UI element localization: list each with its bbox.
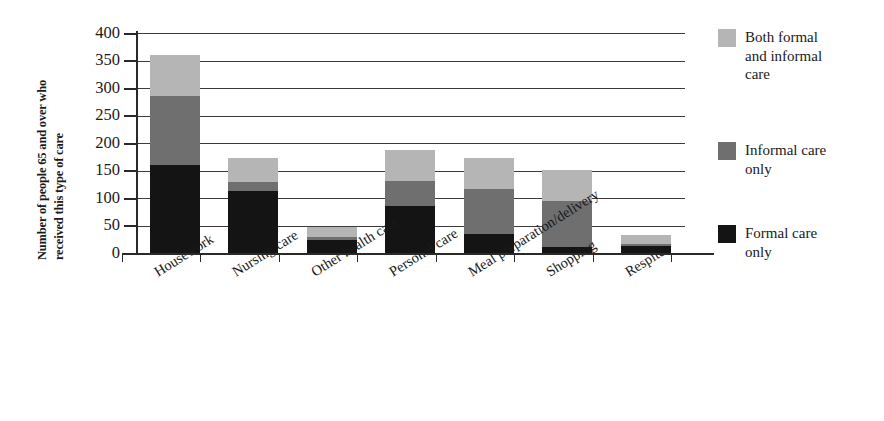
y-axis-title-line-1: Number of people 65 and over who bbox=[35, 80, 50, 260]
bar-segment-informal-care-only bbox=[385, 181, 435, 206]
bar-segment-informal-care-only bbox=[228, 182, 278, 191]
legend-entry-informal-care-only: Informal care only bbox=[718, 141, 826, 178]
bar-segment-informal-care-only bbox=[150, 96, 200, 165]
legend-swatch-informal-icon bbox=[718, 142, 736, 160]
legend-label-informal: Informal care only bbox=[745, 141, 826, 178]
y-tick-label-250: 250 bbox=[74, 107, 120, 124]
y-tick-label-100: 100 bbox=[74, 190, 120, 207]
legend-entry-formal-care-only: Formal care only bbox=[718, 224, 817, 261]
y-tick-label-50: 50 bbox=[74, 217, 120, 234]
y-tick-label-200: 200 bbox=[74, 135, 120, 152]
bar-segment-informal-care-only bbox=[464, 189, 514, 234]
y-tick-label-0: 0 bbox=[74, 245, 120, 262]
bar-nursing-care bbox=[228, 33, 278, 253]
y-tick-label-150: 150 bbox=[74, 162, 120, 179]
legend-swatch-both-icon bbox=[718, 29, 736, 47]
bar-segment-both-formal-and-informal-care bbox=[464, 158, 514, 188]
bar-segment-informal-care-only bbox=[621, 244, 671, 247]
bar-housework bbox=[150, 33, 200, 253]
bar-other-health-care bbox=[307, 33, 357, 253]
legend-label-both: Both formal and informal care bbox=[745, 28, 822, 84]
legend-label-formal: Formal care only bbox=[745, 224, 817, 261]
chart-legend: Both formal and informal care Informal c… bbox=[718, 28, 878, 263]
bar-segment-both-formal-and-informal-care bbox=[307, 227, 357, 237]
bar-segment-both-formal-and-informal-care bbox=[385, 150, 435, 181]
bar-meal-preparation-delivery bbox=[464, 33, 514, 253]
y-tick-label-300: 300 bbox=[74, 80, 120, 97]
plot-area bbox=[136, 33, 685, 253]
y-tick-label-400: 400 bbox=[74, 25, 120, 42]
stacked-bar-chart: Number of people 65 and over who receive… bbox=[0, 0, 884, 421]
bar-respite bbox=[621, 33, 671, 253]
legend-entry-both-formal-and-informal: Both formal and informal care bbox=[718, 28, 822, 84]
legend-swatch-formal-icon bbox=[718, 225, 736, 243]
x-axis-line bbox=[122, 253, 714, 255]
y-tick-label-350: 350 bbox=[74, 52, 120, 69]
bar-segment-both-formal-and-informal-care bbox=[621, 235, 671, 244]
y-axis-line bbox=[136, 31, 138, 255]
bar-segment-both-formal-and-informal-care bbox=[228, 158, 278, 181]
y-axis-tick-labels: 400 350 300 250 200 150 100 50 0 bbox=[68, 0, 120, 280]
bar-segment-both-formal-and-informal-care bbox=[150, 55, 200, 96]
y-axis-title-line-2: received this type of care bbox=[52, 133, 67, 260]
y-axis-title: Number of people 65 and over who receive… bbox=[16, 12, 70, 262]
